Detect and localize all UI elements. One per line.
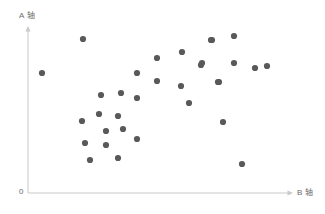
data-point (39, 70, 45, 76)
data-point (103, 128, 109, 134)
data-point (178, 83, 184, 89)
y-axis-label: A 轴 (19, 12, 35, 20)
data-point (252, 65, 258, 71)
data-point (96, 111, 102, 117)
data-point (87, 157, 93, 163)
data-point (231, 33, 237, 39)
data-point (79, 118, 85, 124)
data-point (118, 90, 124, 96)
data-point (120, 126, 126, 132)
data-point (199, 60, 205, 66)
plot-area (0, 0, 325, 214)
scatter-chart: A 轴 B 轴 0 (0, 0, 325, 214)
data-points (39, 33, 270, 167)
data-point (239, 161, 245, 167)
data-point (82, 140, 88, 146)
data-point (115, 113, 121, 119)
data-point (179, 49, 185, 55)
data-point (220, 119, 226, 125)
x-axis-label: B 轴 (297, 189, 314, 197)
data-point (134, 70, 140, 76)
data-point (115, 155, 121, 161)
y-axis-arrowhead (25, 26, 30, 32)
data-point (134, 136, 140, 142)
origin-label: 0 (19, 188, 24, 196)
data-point (209, 37, 215, 43)
data-point (186, 100, 192, 106)
data-point (264, 63, 270, 69)
data-point (80, 36, 86, 42)
data-point (154, 78, 160, 84)
x-axis-arrowhead (288, 190, 294, 195)
axes (25, 26, 293, 196)
data-point (98, 92, 104, 98)
data-point (134, 95, 140, 101)
data-point (103, 142, 109, 148)
data-point (154, 55, 160, 61)
data-point (216, 79, 222, 85)
data-point (231, 60, 237, 66)
